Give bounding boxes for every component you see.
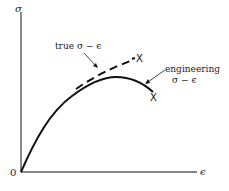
diagram-canvas: σ ϵ 0 X X true σ − ϵ engineering σ − ϵ bbox=[0, 0, 229, 191]
engineering-label-arrow bbox=[148, 70, 165, 82]
true-curve bbox=[76, 60, 133, 89]
engineering-curve bbox=[21, 77, 153, 172]
true-curve-label: true σ − ϵ bbox=[55, 41, 101, 51]
engineering-fracture-marker: X bbox=[150, 92, 157, 103]
y-axis-label: σ bbox=[15, 3, 23, 14]
true-curve-tail bbox=[132, 58, 135, 59]
stress-strain-diagram: σ ϵ 0 X X true σ − ϵ engineering σ − ϵ bbox=[0, 0, 229, 191]
true-fracture-marker: X bbox=[136, 53, 143, 64]
engineering-arrow-head-icon bbox=[145, 79, 150, 84]
true-label-arrow bbox=[84, 53, 96, 66]
x-axis-label: ϵ bbox=[200, 166, 206, 177]
origin-label: 0 bbox=[10, 167, 16, 178]
engineering-curve-label: engineering bbox=[165, 64, 220, 74]
engineering-curve-label-sub: σ − ϵ bbox=[172, 75, 196, 85]
